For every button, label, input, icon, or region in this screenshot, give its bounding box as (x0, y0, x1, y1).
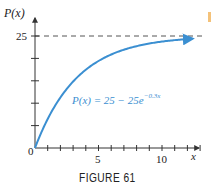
y-axis-label: P(x) (3, 6, 25, 20)
function-annotation-exponent: −0.3x (144, 92, 161, 100)
figure-caption: FIGURE 61 (17, 171, 198, 185)
function-annotation-main: P(x) = 25 − 25e (71, 94, 144, 107)
chart: P(x) 25 0 5 10 x P(x) = 25 − 25e−0.3x (0, 0, 213, 195)
origin-label: 0 (28, 145, 34, 157)
x-axis-label: x (190, 150, 196, 162)
page-edge-marker (208, 12, 211, 22)
x-tick-label-10: 10 (156, 153, 168, 165)
y-tick-label-25: 25 (16, 30, 28, 42)
function-annotation: P(x) = 25 − 25e−0.3x (71, 92, 161, 107)
x-tick-label-5: 5 (95, 153, 101, 165)
